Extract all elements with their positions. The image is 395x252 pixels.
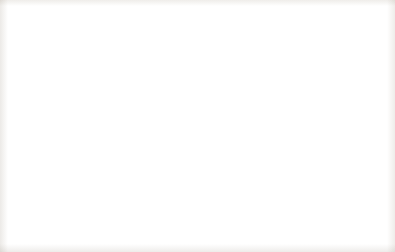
x-axis-tick xyxy=(141,199,142,203)
histogram-bar xyxy=(54,188,76,198)
histogram-bar xyxy=(76,184,98,198)
figure-container: Variance ofpolity data 051015202530 −100… xyxy=(0,0,395,252)
histogram-bar xyxy=(271,160,293,198)
y-axis-tick-label: 30 xyxy=(28,50,39,60)
plot-title-line2: polity data xyxy=(22,23,73,34)
y-axis-tick xyxy=(49,198,53,199)
x-axis-tick xyxy=(228,199,229,203)
y-axis-tick xyxy=(49,55,53,56)
histogram-bar xyxy=(141,136,163,198)
x-axis-tick xyxy=(315,199,316,203)
x-axis-tick xyxy=(206,199,207,203)
x-axis-tick xyxy=(293,199,294,203)
plot-title: Variance ofpolity data xyxy=(22,10,75,35)
x-axis-tick xyxy=(184,199,185,203)
histogram-bar xyxy=(228,112,250,198)
y-axis-tick-label: 5 xyxy=(33,169,39,179)
y-axis-tick-label: 10 xyxy=(28,145,39,155)
y-axis-tick xyxy=(49,127,53,128)
x-axis-tick xyxy=(76,199,77,203)
x-axis-tick xyxy=(358,199,359,203)
y-axis-tick-label: 15 xyxy=(28,122,39,132)
x-axis-tick-label: 0 xyxy=(203,205,209,215)
x-axis-tick xyxy=(336,199,337,203)
y-axis-tick xyxy=(49,150,53,151)
y-axis-tick xyxy=(49,174,53,175)
plot-title-line1: Variance of xyxy=(22,10,75,21)
histogram-bar xyxy=(206,88,228,198)
x-axis-tick xyxy=(54,199,55,203)
x-axis-tick-label: −10 xyxy=(45,205,64,215)
plot-area: 051015202530 −10010 xyxy=(54,55,358,198)
x-axis-tick xyxy=(119,199,120,203)
x-axis-tick-label: 10 xyxy=(352,205,363,215)
histogram-bar xyxy=(315,193,337,198)
y-axis-tick-label: 20 xyxy=(28,98,39,108)
histogram-bar xyxy=(336,196,358,198)
x-axis-tick xyxy=(249,199,250,203)
histogram-bar xyxy=(249,160,271,198)
histogram-bar xyxy=(119,141,141,198)
x-axis-caption: Freedom House democracy level (polity sc… xyxy=(0,219,395,229)
x-axis-tick xyxy=(163,199,164,203)
histogram-bar xyxy=(293,179,315,198)
y-axis-line xyxy=(53,55,54,199)
x-axis-tick xyxy=(271,199,272,203)
histogram-bar xyxy=(184,55,206,198)
histogram-bar xyxy=(163,74,185,198)
histogram-bar xyxy=(97,165,119,198)
y-axis-tick-label: 0 xyxy=(33,193,39,203)
y-axis-tick xyxy=(49,79,53,80)
y-axis-tick-label: 25 xyxy=(28,74,39,84)
x-axis-tick xyxy=(97,199,98,203)
y-axis-tick xyxy=(49,103,53,104)
